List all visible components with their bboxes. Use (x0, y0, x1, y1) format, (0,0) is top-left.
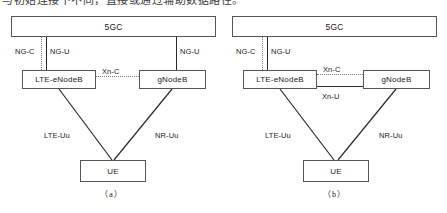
node-ue: UE (80, 160, 146, 182)
link-ng-u-left-line (46, 37, 47, 70)
node-lte-enodeb: LTE-eNodeB (243, 70, 317, 89)
link-xn-c-line (317, 74, 363, 75)
link-xn-c-label: Xn-C (322, 65, 342, 74)
link-ng-c-label: NG-C (236, 47, 256, 56)
link-ng-u-left-label: NG-U (50, 47, 70, 56)
link-ng-c-line (41, 37, 42, 70)
link-nr-uu-label: NR-Uu (379, 131, 402, 140)
node-5gc-label: 5GC (104, 22, 122, 32)
node-gnodeb-label: gNodeB (381, 75, 411, 84)
node-5gc-label: 5GC (325, 22, 343, 32)
node-5gc: 5GC (232, 16, 437, 37)
link-nr-uu-label: NR-Uu (155, 131, 178, 140)
clipped-header-text-value: 与初始连接下不同，直接或通过辅助数据路径。 (2, 0, 244, 7)
link-ng-c-line (262, 37, 263, 70)
node-5gc: 5GC (11, 16, 216, 37)
figure-a-caption: （a） (0, 188, 223, 199)
node-lte-enodeb-label: LTE-eNodeB (35, 75, 83, 84)
link-xn-u-label: Xn-U (322, 92, 340, 101)
link-lte-uu-label: LTE-Uu (44, 131, 70, 140)
node-gnodeb-label: gNodeB (157, 75, 187, 84)
node-lte-enodeb: LTE-eNodeB (22, 70, 96, 89)
link-ng-u-right-line (176, 37, 177, 70)
link-ng-u-left-label: NG-U (271, 47, 291, 56)
node-ue-label: UE (330, 167, 342, 176)
node-ue-label: UE (107, 167, 119, 176)
link-ng-c-label: NG-C (15, 47, 35, 56)
clipped-header-text: 与初始连接下不同，直接或通过辅助数据路径。 (0, 0, 447, 7)
figure-b-caption: （b） (223, 188, 446, 199)
figure-b: 5GC NG-C NG-U LTE-eNodeB gNodeB Xn-C Xn-… (223, 10, 446, 213)
node-gnodeb: gNodeB (139, 70, 206, 89)
figure-a: 5GC NG-C NG-U NG-U LTE-eNodeB gNodeB Xn-… (0, 10, 223, 213)
node-lte-enodeb-label: LTE-eNodeB (256, 75, 304, 84)
link-ng-u-left-line (267, 37, 268, 70)
link-lte-uu-label: LTE-Uu (265, 131, 291, 140)
link-ng-u-right-label: NG-U (180, 47, 200, 56)
link-xn-c-line (96, 76, 139, 77)
node-gnodeb: gNodeB (363, 70, 430, 89)
link-xn-c-label: Xn-C (101, 67, 121, 76)
node-ue: UE (303, 160, 369, 182)
